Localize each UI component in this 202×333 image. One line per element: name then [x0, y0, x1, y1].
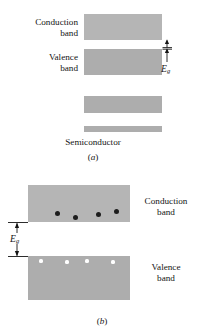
band-diagram-figure: Conduction band Valence band Semiconduct…	[0, 0, 202, 333]
panel-b-letter: (b)	[62, 316, 142, 326]
panel-b-gap-energy-subscript: g	[16, 237, 19, 244]
panel-b-gap-arrow-group	[0, 0, 202, 333]
panel-b-gap-energy-label: Eg	[9, 233, 20, 244]
panel-b-paren-close: )	[104, 316, 107, 326]
